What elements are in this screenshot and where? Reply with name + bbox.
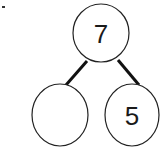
stray-mark <box>2 6 5 8</box>
connector-left <box>66 61 87 85</box>
part-circle-left[interactable] <box>32 84 88 146</box>
number-bond-diagram: 7 5 <box>0 0 161 148</box>
whole-value: 7 <box>94 19 108 49</box>
whole-circle: 7 <box>73 4 129 62</box>
connector-right <box>118 60 139 85</box>
part-right-value: 5 <box>125 101 139 131</box>
part-circle-right: 5 <box>105 84 159 146</box>
